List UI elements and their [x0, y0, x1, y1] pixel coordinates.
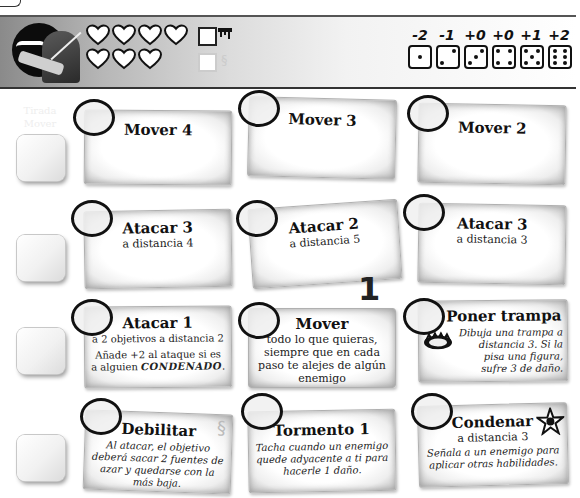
card-description-line: a alguien CONDENADO. — [85, 360, 231, 373]
card-subtitle: todo lo que quieras, siempre que en cada… — [249, 333, 395, 385]
card-check-circle[interactable] — [241, 393, 283, 430]
die-face-2-icon — [436, 45, 460, 69]
card-description: Señala a un enemigo para aplicar otras h… — [419, 442, 568, 474]
row-4-checkbox[interactable] — [17, 435, 65, 481]
row-2-checkbox[interactable] — [17, 235, 65, 281]
card-check-circle[interactable] — [238, 90, 280, 127]
card-check-circle[interactable] — [403, 298, 445, 335]
card-description: Al atacar, el objetivo deberá sacar 2 fu… — [84, 436, 232, 493]
dice-modifier-table: -2 -1 +0 +0 +1 +2 — [0, 0, 580, 80]
card-description-text: a alguien — [91, 361, 138, 372]
chain-link-icon: § — [217, 417, 227, 438]
dice-modifier: -1 — [434, 27, 460, 43]
level-number: 1 — [358, 270, 380, 308]
card-check-circle[interactable] — [407, 95, 449, 132]
card-subtitle: a 2 objetivos a distancia 2 — [85, 331, 231, 345]
card-check-circle[interactable] — [238, 302, 280, 339]
card-subtitle: a distancia 4 — [85, 236, 231, 252]
card-subtitle: a distancia 3 — [419, 232, 565, 248]
dice-modifier: +0 — [462, 27, 488, 43]
punctuation: . — [222, 360, 225, 371]
condenado-keyword: CONDENADO — [141, 360, 222, 372]
dice-modifier: -2 — [407, 27, 433, 43]
card-check-circle[interactable] — [71, 299, 113, 336]
card-check-circle[interactable] — [73, 99, 115, 136]
die-face-1-icon — [408, 45, 432, 69]
dice-modifier: +0 — [490, 27, 516, 43]
die-face-6-icon — [548, 45, 572, 69]
curse-star-icon — [536, 407, 565, 436]
card-check-circle[interactable] — [236, 200, 278, 237]
die-face-5-icon — [520, 45, 544, 69]
dice-modifier: +1 — [518, 27, 544, 43]
dice-modifier: +2 — [546, 27, 572, 43]
card-check-circle[interactable] — [403, 194, 445, 231]
row-1-checkbox[interactable] — [17, 135, 65, 181]
row-3-checkbox[interactable] — [17, 328, 65, 374]
card-check-circle[interactable] — [411, 393, 453, 430]
card-description: Tacha cuando un enemigo quede adyacente … — [249, 438, 396, 481]
card-check-circle[interactable] — [80, 398, 122, 435]
faint-row-label: Tirada Mover — [10, 104, 70, 130]
card-check-circle[interactable] — [71, 200, 113, 237]
die-face-4-icon — [492, 45, 516, 69]
die-face-3-icon — [464, 45, 488, 69]
